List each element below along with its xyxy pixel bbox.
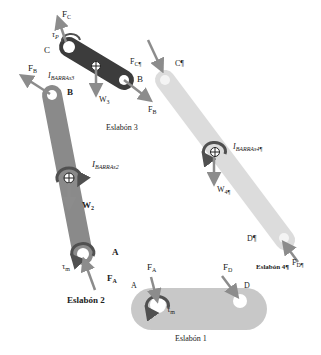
label-fa1: FA bbox=[147, 263, 156, 273]
cm-marker-link2 bbox=[64, 173, 74, 183]
force-fa2-arrow bbox=[84, 260, 95, 290]
label-fb2: FB bbox=[28, 64, 37, 74]
label-joint-a2: A bbox=[112, 248, 119, 257]
label-fa2: FA bbox=[107, 274, 117, 284]
title-link1: Eslabón 1 bbox=[175, 335, 207, 343]
label-w4: W4¶ bbox=[217, 186, 230, 195]
title-link4: Eslabón 4¶ bbox=[256, 264, 289, 271]
label-torque-p: τP bbox=[52, 31, 59, 40]
label-joint-b2: B bbox=[67, 88, 73, 97]
label-joint-d4: D¶ bbox=[247, 235, 256, 243]
force-fc4-arrow bbox=[148, 40, 162, 70]
label-inertia-4: IBARRAs4¶ bbox=[233, 143, 262, 152]
label-torque-m2: τm bbox=[62, 263, 70, 272]
label-fd1: FD bbox=[223, 263, 232, 273]
label-joint-c4: C¶ bbox=[175, 60, 184, 68]
label-joint-d1: D bbox=[244, 282, 250, 290]
label-fc4-on-link3: FC¶ bbox=[130, 58, 141, 67]
cm-marker-link3 bbox=[92, 62, 101, 71]
label-fc: FC bbox=[62, 10, 71, 20]
label-joint-c: C bbox=[44, 46, 50, 55]
label-joint-a1: A bbox=[131, 282, 137, 290]
force-fb2-arrow bbox=[22, 76, 50, 94]
label-joint-b3: B bbox=[137, 75, 143, 84]
label-torque-m1: τm bbox=[167, 306, 175, 315]
title-link2: Eslabón 2 bbox=[67, 296, 105, 305]
link1-bar bbox=[131, 288, 267, 330]
label-fb3: FB bbox=[148, 106, 156, 115]
title-link3: Eslabón 3 bbox=[106, 124, 138, 132]
label-w3: W3 bbox=[99, 96, 110, 105]
link4-bar bbox=[160, 75, 289, 243]
label-w2: W2 bbox=[82, 201, 94, 211]
cm-marker-link4 bbox=[211, 148, 220, 157]
label-inertia-3: IBARRAs3 bbox=[48, 72, 74, 81]
label-inertia-2: IBARRAs2 bbox=[92, 160, 119, 170]
label-fd4: FD¶ bbox=[292, 259, 304, 268]
